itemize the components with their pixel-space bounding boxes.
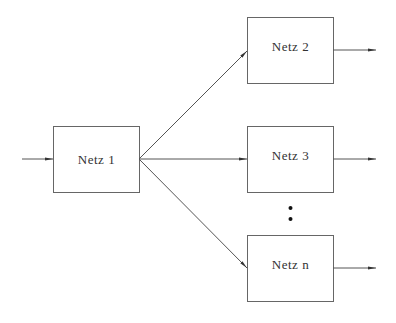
node-netz-2: Netz 2 — [248, 18, 334, 84]
node-label: Netz 1 — [78, 152, 115, 167]
node-label: Netz 3 — [272, 148, 309, 163]
edge-netz1-netzn — [139, 159, 247, 268]
node-netz-3: Netz 3 — [248, 127, 334, 193]
node-netz-1: Netz 1 — [54, 127, 140, 193]
edge-netz1-netz2 — [139, 51, 247, 159]
diagram-canvas: Netz 1 Netz 2 Netz 3 Netz n — [0, 0, 396, 323]
node-label: Netz 2 — [272, 39, 309, 54]
node-label: Netz n — [272, 257, 309, 272]
ellipsis-dots — [289, 206, 293, 221]
node-netz-n: Netz n — [248, 236, 334, 302]
